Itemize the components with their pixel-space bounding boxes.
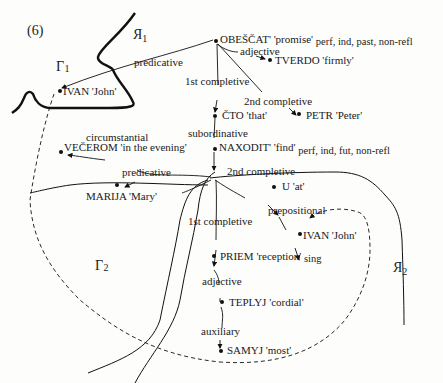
node-dot-ivan-2 xyxy=(298,232,302,236)
edge-label-1st-completive-2: 1st completive xyxy=(188,215,252,227)
edge-label-adjective-2: adjective xyxy=(202,275,242,287)
region-label-l1: L1 xyxy=(56,57,70,74)
node-naxodit: NAXODIT' 'find' perf, ind, fut, non-refl xyxy=(219,141,390,154)
node-priem: PRIEM 'reception' sing xyxy=(220,250,322,263)
dependency-tree-diagram: (6) R1 L1 L2 R2 OBEŠČAT' 'promise' perf,… xyxy=(0,0,443,383)
node-dot-priem xyxy=(212,254,216,258)
region-label-l2: L2 xyxy=(95,256,109,273)
edge-label-1st-completive-1: 1st completive xyxy=(185,75,249,87)
edge-label-predicative-1: predicative xyxy=(134,56,183,68)
region-label-r2: R2 xyxy=(393,260,407,277)
node-dot-vecherom xyxy=(59,150,63,154)
node-u: U 'at' xyxy=(282,180,305,192)
node-dot-teplyj xyxy=(220,300,224,304)
node-dot-chto xyxy=(213,114,217,118)
node-dot-ivan-1 xyxy=(58,89,62,93)
node-dot-u xyxy=(272,185,276,189)
node-ivan-2: IVAN 'John' xyxy=(303,229,357,241)
node-teplyj: TEPLYJ 'cordial' xyxy=(229,296,304,308)
region-label-r1: R1 xyxy=(133,27,147,44)
node-dot-petr xyxy=(297,112,301,116)
edge-label-predicative-2: predicative xyxy=(122,166,171,178)
edge-label-adjective-1: adjective xyxy=(240,45,280,57)
figure-number: (6) xyxy=(27,23,43,39)
node-dot-naxodit xyxy=(213,147,217,151)
edge-label-circumstantial: circumstantial xyxy=(86,131,148,143)
edge-label-prepositional: prepositional xyxy=(268,204,325,216)
node-marija: MARIJA 'Mary' xyxy=(86,190,157,202)
node-dot-marija xyxy=(115,183,119,187)
edge-label-2nd-completive-2: 2nd completive xyxy=(227,165,295,177)
node-ivan-1: IVAN 'John' xyxy=(63,85,117,97)
edge-label-subordinative: subordinative xyxy=(188,127,248,139)
node-dot-samyj xyxy=(219,349,223,353)
node-samyj: SAMYJ 'most' xyxy=(227,344,291,356)
node-dot-obeschat xyxy=(214,39,218,43)
edge-label-2nd-completive-1: 2nd completive xyxy=(244,95,312,107)
node-dot-tverdo xyxy=(268,58,272,62)
node-petr: PETR 'Peter' xyxy=(306,109,362,121)
node-tverdo: TVERDO 'firmly' xyxy=(275,54,354,66)
edge-label-auxiliary: auxiliary xyxy=(201,325,240,337)
node-chto: ČTO 'that' xyxy=(222,109,267,121)
